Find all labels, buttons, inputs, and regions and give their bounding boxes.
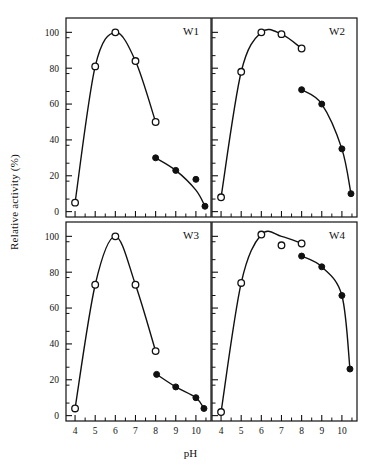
data-point-open — [238, 68, 245, 75]
series-line-open-circle — [221, 29, 302, 197]
x-tick-label: 9 — [173, 426, 178, 436]
series-line-filled-circle — [302, 256, 350, 369]
y-tick-label: 60 — [50, 303, 60, 313]
data-point-filled — [339, 146, 345, 152]
data-point-open — [298, 240, 305, 247]
y-axis-label: Relative activity (%) — [8, 102, 20, 302]
data-point-open — [112, 233, 119, 240]
panel-W1: 020406080100W1 — [45, 18, 211, 217]
panel-W3: 02040608010045678910W3 — [45, 222, 211, 436]
series-line-open-circle — [75, 32, 156, 202]
data-point-open — [238, 280, 245, 287]
data-point-open — [258, 29, 265, 36]
panel-frame — [212, 18, 357, 217]
y-tick-label: 80 — [50, 268, 60, 278]
y-tick-label: 20 — [50, 375, 60, 385]
data-point-filled — [299, 87, 305, 93]
data-point-open — [152, 348, 159, 355]
x-tick-label: 6 — [113, 426, 118, 436]
series-line-filled-circle — [157, 374, 204, 408]
series-line-open-circle — [75, 236, 156, 408]
data-point-filled — [347, 366, 353, 372]
x-tick-label: 5 — [93, 426, 98, 436]
panel-W2: W2 — [212, 18, 357, 217]
x-tick-label: 7 — [279, 426, 284, 436]
data-point-filled — [319, 101, 325, 107]
data-point-open — [278, 31, 285, 38]
plot-canvas: 020406080100W1W202040608010045678910W345… — [0, 0, 381, 471]
y-tick-label: 40 — [50, 135, 60, 145]
data-point-open — [218, 194, 225, 201]
data-point-filled — [319, 264, 325, 270]
panel-label-W2: W2 — [329, 25, 345, 37]
y-tick-label: 20 — [50, 171, 60, 181]
data-point-filled — [173, 384, 179, 390]
y-tick-label: 80 — [50, 64, 60, 74]
x-tick-label: 10 — [191, 426, 201, 436]
data-point-filled — [348, 191, 354, 197]
data-point-open — [112, 29, 119, 36]
data-point-filled — [153, 155, 159, 161]
data-point-open — [72, 199, 79, 206]
data-point-open — [132, 281, 139, 288]
x-tick-label: 9 — [319, 426, 324, 436]
data-point-open — [72, 405, 79, 412]
data-point-filled — [193, 176, 199, 182]
series-line-open-circle — [221, 231, 302, 412]
data-point-open — [152, 119, 159, 126]
data-point-filled — [154, 371, 160, 377]
data-point-filled — [299, 253, 305, 259]
y-tick-label: 100 — [45, 232, 60, 242]
x-tick-label: 8 — [153, 426, 158, 436]
y-tick-label: 60 — [50, 99, 60, 109]
panel-label-W3: W3 — [183, 229, 199, 241]
panel-frame — [66, 18, 211, 217]
data-point-open — [132, 58, 139, 65]
x-tick-label: 7 — [133, 426, 138, 436]
y-tick-label: 0 — [54, 207, 59, 217]
y-tick-label: 40 — [50, 339, 60, 349]
x-tick-label: 6 — [259, 426, 264, 436]
data-point-open — [218, 409, 225, 416]
x-tick-label: 4 — [219, 426, 224, 436]
data-point-filled — [339, 293, 345, 299]
data-point-open — [92, 281, 99, 288]
data-point-filled — [202, 203, 208, 209]
data-point-open — [298, 45, 305, 52]
x-tick-label: 4 — [73, 426, 78, 436]
panel-W4: 45678910W4 — [212, 222, 357, 436]
panel-label-W1: W1 — [183, 25, 199, 37]
x-tick-label: 5 — [239, 426, 244, 436]
data-point-filled — [201, 405, 207, 411]
data-point-filled — [173, 167, 179, 173]
ph-activity-figure: Relative activity (%) pH 020406080100W1W… — [0, 0, 381, 471]
x-tick-label: 10 — [337, 426, 347, 436]
x-axis-label: pH — [0, 447, 381, 459]
y-tick-label: 0 — [54, 411, 59, 421]
data-point-open — [92, 63, 99, 70]
series-line-filled-circle — [302, 90, 351, 194]
data-point-filled — [193, 395, 199, 401]
data-point-open — [278, 242, 285, 249]
data-point-open — [258, 231, 265, 238]
panel-label-W4: W4 — [329, 229, 345, 241]
x-tick-label: 8 — [299, 426, 304, 436]
y-tick-label: 100 — [45, 28, 60, 38]
